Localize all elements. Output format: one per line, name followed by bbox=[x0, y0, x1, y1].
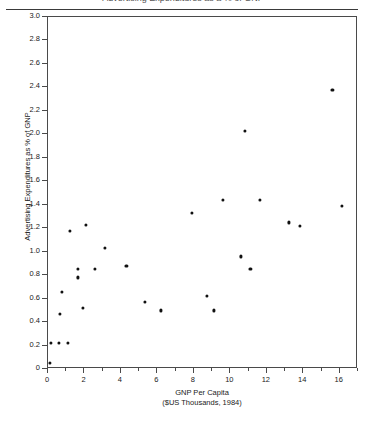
y-tick-mark bbox=[42, 110, 47, 111]
data-point bbox=[103, 247, 106, 250]
y-tick-mark bbox=[42, 204, 47, 205]
y-tick-mark bbox=[42, 345, 47, 346]
data-point bbox=[159, 309, 162, 312]
y-tick-label: 3.0 bbox=[30, 11, 40, 20]
x-axis-tick-minor bbox=[284, 368, 285, 388]
plot-area bbox=[47, 16, 357, 368]
y-tick-mark bbox=[42, 180, 47, 181]
scatter-plot-figure: Advertising Expenditures as a % of GNP 0… bbox=[0, 0, 366, 422]
y-tick-label: 0.2 bbox=[30, 340, 40, 349]
y-tick-mark bbox=[42, 133, 47, 134]
x-axis-tick-minor bbox=[65, 368, 66, 388]
y-tick-label: 0 bbox=[36, 363, 40, 372]
x-tick-mark bbox=[47, 368, 48, 373]
x-axis-tick-minor bbox=[175, 368, 176, 388]
x-tick-mark bbox=[138, 368, 139, 371]
x-axis-tick-minor bbox=[321, 368, 322, 388]
x-axis-label: GNP Per Capita ($US Thousands, 1984) bbox=[47, 388, 357, 408]
data-point bbox=[66, 342, 69, 345]
data-point bbox=[81, 306, 84, 309]
x-tick-mark bbox=[83, 368, 84, 373]
x-tick-label: 4 bbox=[118, 375, 122, 384]
data-point bbox=[68, 229, 71, 232]
data-point bbox=[205, 295, 208, 298]
top-divider-rule bbox=[6, 9, 358, 10]
x-axis-tick-minor bbox=[357, 368, 358, 388]
y-axis-tick: 0.4 bbox=[0, 321, 47, 322]
x-axis-tick-major: 2 bbox=[83, 368, 84, 388]
y-tick-mark bbox=[42, 16, 47, 17]
data-point bbox=[48, 362, 51, 365]
y-tick-mark bbox=[42, 63, 47, 64]
data-point bbox=[60, 290, 63, 293]
x-axis-tick-minor bbox=[248, 368, 249, 388]
y-tick-mark bbox=[42, 251, 47, 252]
data-point bbox=[190, 211, 193, 214]
x-tick-label: 14 bbox=[298, 375, 306, 384]
x-axis-label-line1: GNP Per Capita bbox=[47, 388, 357, 398]
x-tick-mark bbox=[175, 368, 176, 371]
data-point bbox=[221, 198, 224, 201]
data-point bbox=[340, 204, 343, 207]
y-axis-tick: 2.6 bbox=[0, 63, 47, 64]
y-tick-label: 0.4 bbox=[30, 316, 40, 325]
x-axis-tick-major: 4 bbox=[120, 368, 121, 388]
x-axis-tick-major: 16 bbox=[339, 368, 340, 388]
y-tick-mark bbox=[42, 157, 47, 158]
x-tick-mark bbox=[266, 368, 267, 373]
y-tick-label: 2.8 bbox=[30, 34, 40, 43]
data-point bbox=[212, 309, 215, 312]
data-point bbox=[93, 268, 96, 271]
x-tick-label: 6 bbox=[154, 375, 158, 384]
y-tick-mark bbox=[42, 86, 47, 87]
data-point bbox=[143, 301, 146, 304]
x-tick-label: 10 bbox=[225, 375, 233, 384]
y-tick-mark bbox=[42, 298, 47, 299]
x-tick-label: 0 bbox=[45, 375, 49, 384]
data-point bbox=[85, 223, 88, 226]
x-tick-mark bbox=[102, 368, 103, 371]
data-point bbox=[49, 342, 52, 345]
clipped-header-text: Advertising Expenditures as a % of GNP bbox=[0, 0, 366, 6]
x-tick-mark bbox=[65, 368, 66, 371]
y-tick-label: 0.6 bbox=[30, 293, 40, 302]
x-axis-tick-minor bbox=[211, 368, 212, 388]
y-tick-mark bbox=[42, 227, 47, 228]
data-point bbox=[243, 129, 246, 132]
y-axis-tick: 3.0 bbox=[0, 16, 47, 17]
y-tick-mark bbox=[42, 39, 47, 40]
x-tick-mark bbox=[284, 368, 285, 371]
x-tick-label: 12 bbox=[262, 375, 270, 384]
x-axis-tick-major: 14 bbox=[302, 368, 303, 388]
data-point bbox=[287, 221, 290, 224]
y-tick-mark bbox=[42, 274, 47, 275]
y-axis-tick: 0.6 bbox=[0, 298, 47, 299]
data-point bbox=[125, 264, 128, 267]
y-axis-tick: 0.2 bbox=[0, 345, 47, 346]
x-tick-mark bbox=[120, 368, 121, 373]
y-axis-tick: 2.8 bbox=[0, 39, 47, 40]
x-tick-label: 2 bbox=[81, 375, 85, 384]
data-point bbox=[298, 224, 301, 227]
x-axis-tick-minor bbox=[102, 368, 103, 388]
x-tick-label: 8 bbox=[191, 375, 195, 384]
data-point bbox=[76, 276, 79, 279]
y-tick-label: 2.6 bbox=[30, 58, 40, 67]
x-axis-tick-major: 12 bbox=[266, 368, 267, 388]
x-tick-mark bbox=[357, 368, 358, 371]
data-point bbox=[240, 255, 243, 258]
y-tick-mark bbox=[42, 321, 47, 322]
x-tick-mark bbox=[321, 368, 322, 371]
x-axis-tick-major: 10 bbox=[229, 368, 230, 388]
y-axis-tick: 0 bbox=[0, 368, 47, 369]
x-tick-mark bbox=[156, 368, 157, 373]
x-tick-mark bbox=[339, 368, 340, 373]
data-point bbox=[57, 342, 60, 345]
x-tick-mark bbox=[302, 368, 303, 373]
x-tick-mark bbox=[229, 368, 230, 373]
x-tick-mark bbox=[193, 368, 194, 373]
x-axis-tick-major: 8 bbox=[193, 368, 194, 388]
data-point bbox=[249, 268, 252, 271]
x-tick-mark bbox=[211, 368, 212, 371]
x-axis-tick-major: 0 bbox=[47, 368, 48, 388]
